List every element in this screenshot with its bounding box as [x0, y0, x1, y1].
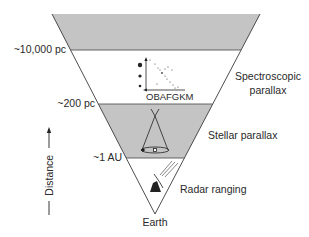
apex-label-earth: Earth	[135, 217, 175, 228]
boundary-label-200pc: ~200 pc	[57, 98, 95, 109]
band-far	[52, 14, 260, 50]
boundary-label-1au: ~1 AU	[93, 152, 122, 163]
method-label-stellar-parallax: Stellar parallax	[208, 130, 277, 141]
radar-dish-icon	[150, 161, 178, 192]
method-label-radar-ranging: Radar ranging	[180, 184, 247, 195]
method-label-spectroscopic-line1: Spectroscopic	[228, 71, 308, 82]
method-label-spectroscopic: Spectroscopic parallax	[228, 71, 308, 95]
distance-axis-label: Distance	[44, 153, 55, 197]
method-label-spectroscopic-line2: parallax	[228, 85, 308, 96]
hr-axis-label: OBAFGKM	[146, 92, 194, 102]
hr-diagram-icon	[138, 57, 185, 92]
distance-ladder-diagram	[0, 0, 309, 237]
boundary-label-10000pc: ~10,000 pc	[14, 44, 66, 55]
